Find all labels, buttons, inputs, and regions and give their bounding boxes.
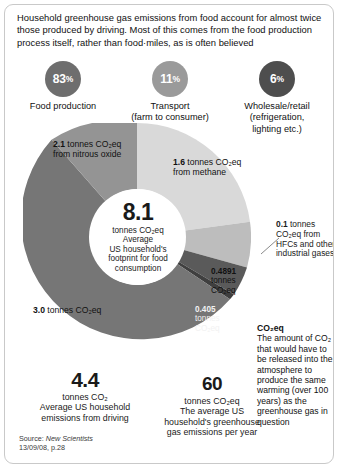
source-prefix: Source:: [19, 434, 46, 443]
annotation-carbon-dioxide: 3.0 tonnes CO₂eq: [33, 305, 125, 315]
annotation-carbon-dioxide-text: tonnes CO₂eq: [45, 305, 101, 315]
stat-total-value: 60: [151, 373, 273, 395]
annotation-hfcs-value: 0.1: [276, 219, 288, 229]
annotation-methane: 1.6 tonnes CO₂eq from methane: [173, 157, 247, 177]
badge-disc-wholesale-retail: 6%: [259, 61, 295, 97]
badge-label-food-production: Food production: [11, 101, 115, 112]
percent-sign: %: [66, 74, 73, 84]
annotation-slice-405: 0.405 tonnes CO₂eq: [195, 305, 239, 333]
annotation-slice-4891-text: tonnes CO₂eq: [211, 276, 259, 295]
center-description: tonnes CO₂eq Average US household's foot…: [108, 226, 168, 274]
annotation-slice-405-text: tonnes CO₂eq: [195, 314, 239, 333]
center-value: 8.1: [123, 201, 153, 224]
source-publication: New Scientists: [46, 434, 93, 443]
percent-sign: %: [277, 74, 284, 84]
stat-total-description: tonnes CO₂eq The average US household's …: [151, 396, 273, 438]
badge-label-transport: Transport (farm to consumer): [118, 101, 222, 124]
stat-total-household-emissions: 60 tonnes CO₂eq The average US household…: [151, 373, 273, 438]
annotation-carbon-dioxide-value: 3.0: [33, 305, 45, 315]
annotation-slice-4891: 0.4891 tonnes CO₂eq: [211, 267, 259, 295]
stat-driving-emissions: 4.4 tonnes CO₂ Average US household emis…: [13, 369, 157, 423]
intro-text: Household greenhouse gas emissions from …: [17, 12, 323, 49]
badge-food-production: 83% Food production: [11, 61, 115, 112]
stat-driving-description: tonnes CO₂ Average US household emission…: [13, 392, 157, 423]
annotation-slice-4891-value: 0.4891: [211, 267, 236, 276]
stat-driving-value: 4.4: [13, 369, 157, 391]
source-detail: 13/09/08, p.28: [19, 444, 159, 453]
badge-value-food-production: 83: [53, 72, 66, 86]
annotation-methane-value: 1.6: [173, 157, 185, 167]
badge-value-transport: 11: [160, 72, 172, 86]
annotation-nitrous-oxide: 2.1 tonnes CO₂eq from nitrous oxide: [53, 139, 139, 159]
source-citation: Source: New Scientists 13/09/08, p.28: [19, 435, 159, 453]
annotation-hfcs: 0.1 tonnes CO₂eq from HFCs and other ind…: [276, 220, 334, 259]
percentage-badges: 83% Food production 11% Transport (farm …: [5, 61, 334, 123]
badge-disc-transport: 11%: [152, 61, 188, 97]
annotation-slice-405-value: 0.405: [195, 305, 216, 314]
center-figure: 8.1 tonnes CO₂eq Average US household's …: [90, 189, 186, 285]
badge-disc-food-production: 83%: [45, 61, 81, 97]
annotation-nitrous-oxide-value: 2.1: [53, 139, 65, 149]
definition-term: CO₂eq: [257, 323, 284, 333]
infographic-card: Household greenhouse gas emissions from …: [4, 4, 334, 464]
percent-sign: %: [172, 74, 179, 84]
badge-transport: 11% Transport (farm to consumer): [118, 61, 222, 124]
